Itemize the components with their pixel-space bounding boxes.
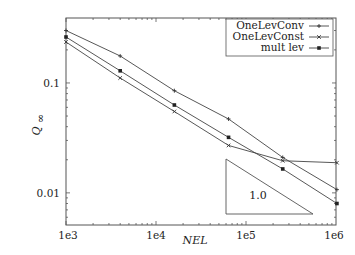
x-tick-label-1e4: 1e4	[146, 229, 166, 241]
chart-canvas: 0.1 0.01 1e3 1e4 1e5 1e6 NEL Q ∞ 1.0 One…	[0, 0, 355, 255]
slope-label: 1.0	[249, 189, 267, 202]
legend-label-mult-lev: mult lev	[261, 41, 304, 53]
series-mult-lev	[64, 35, 339, 205]
y-tick-label-0.01: 0.01	[37, 187, 60, 199]
y-axis-label-main: Q	[30, 126, 43, 135]
x-axis-label: NEL	[182, 234, 208, 247]
y-tick-label-0.1: 0.1	[43, 77, 60, 89]
y-axis-label: Q ∞	[30, 114, 47, 136]
y-axis-label-sub: ∞	[34, 114, 47, 123]
x-tick-label-1e6: 1e6	[324, 229, 344, 241]
legend: OneLevConv OneLevConst mult lev	[226, 19, 333, 56]
series-onelevconst	[64, 40, 339, 164]
x-tick-label-1e3: 1e3	[58, 229, 78, 241]
x-tick-label-1e5: 1e5	[236, 229, 256, 241]
